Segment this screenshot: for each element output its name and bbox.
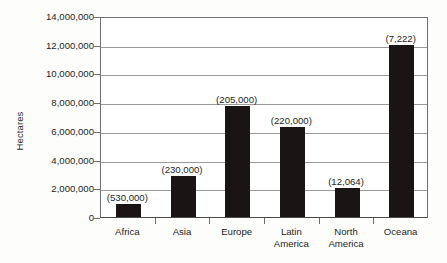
y-axis-tick-mark bbox=[94, 46, 100, 47]
y-axis-tick-label: 6,000,000 bbox=[28, 126, 94, 137]
y-axis-tick-label: 2,000,000 bbox=[28, 183, 94, 194]
x-axis-tick-mark bbox=[155, 218, 156, 224]
bar-chart-figure: Hectares 14,000,00012,000,00010,000,0008… bbox=[0, 0, 447, 263]
y-axis-tick-label: 0 bbox=[28, 212, 94, 223]
y-axis-tick-mark bbox=[94, 189, 100, 190]
x-axis-category-label: Oceana bbox=[366, 226, 436, 238]
gridline bbox=[101, 75, 427, 76]
bar bbox=[225, 106, 250, 217]
y-axis-tick-mark bbox=[94, 218, 100, 219]
y-axis-tick-mark bbox=[94, 74, 100, 75]
bar bbox=[335, 188, 360, 217]
y-axis-tick-mark bbox=[94, 161, 100, 162]
bar bbox=[389, 45, 414, 217]
y-axis-tick-mark bbox=[94, 132, 100, 133]
gridline bbox=[101, 133, 427, 134]
bar-value-label: (230,000) bbox=[142, 164, 222, 175]
x-axis-tick-mark bbox=[264, 218, 265, 224]
bar-value-label: (7,222) bbox=[361, 33, 441, 44]
x-axis-tick-mark bbox=[209, 218, 210, 224]
x-axis-tick-mark bbox=[319, 218, 320, 224]
bar-value-label: (530,000) bbox=[87, 192, 167, 203]
bar bbox=[280, 127, 305, 217]
y-axis-tick-label: 8,000,000 bbox=[28, 97, 94, 108]
bar bbox=[116, 204, 141, 217]
y-axis-tick-mark bbox=[94, 17, 100, 18]
x-axis-tick-mark bbox=[373, 218, 374, 224]
gridline bbox=[101, 47, 427, 48]
bar-value-label: (12,064) bbox=[306, 176, 386, 187]
gridline bbox=[101, 162, 427, 163]
bar-value-label: (220,000) bbox=[251, 115, 331, 126]
bar bbox=[171, 176, 196, 217]
y-axis-tick-label: 12,000,000 bbox=[28, 40, 94, 51]
bar-value-label: (205,000) bbox=[197, 94, 277, 105]
y-axis-title: Hectares bbox=[14, 96, 25, 166]
y-axis-tick-mark bbox=[94, 103, 100, 104]
y-axis-tick-label: 14,000,000 bbox=[28, 11, 94, 22]
y-axis-tick-labels: 14,000,00012,000,00010,000,0008,000,0006… bbox=[26, 0, 94, 263]
y-axis-tick-label: 4,000,000 bbox=[28, 155, 94, 166]
y-axis-tick-label: 10,000,000 bbox=[28, 68, 94, 79]
